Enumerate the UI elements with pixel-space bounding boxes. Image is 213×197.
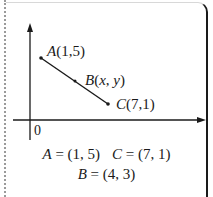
label-point-b: B(x, y) [85, 73, 125, 88]
y-axis-arrow-icon [27, 23, 33, 32]
point-c [106, 102, 110, 106]
label-a-var: A [47, 43, 56, 59]
label-b-y: y [113, 72, 120, 88]
eq-b-var: B [78, 166, 87, 182]
origin-label: 0 [34, 124, 41, 138]
diagram-frame: A(1,5) B(x, y) C(7,1) 0 A = (1, 5)C = (7… [0, 0, 213, 197]
label-c-var: C [116, 96, 126, 112]
eq-b-val: = (4, 3) [87, 166, 135, 182]
x-axis-arrow-icon [197, 117, 206, 123]
label-b-x: x [99, 72, 106, 88]
eq-c-var: C [112, 146, 122, 162]
label-c-coords: (7,1) [126, 96, 155, 112]
eq-a-var: A [42, 146, 51, 162]
equation-line-1: A = (1, 5)C = (7, 1) [0, 147, 213, 162]
point-b [74, 80, 77, 83]
label-b-close: ) [120, 72, 125, 88]
label-b-var: B [85, 72, 94, 88]
label-point-c: C(7,1) [116, 97, 155, 112]
label-point-a: A(1,5) [47, 44, 85, 59]
equation-line-2: B = (4, 3) [0, 167, 213, 182]
eq-a-val: = (1, 5) [52, 146, 100, 162]
eq-c-val: = (7, 1) [122, 146, 170, 162]
point-a [39, 56, 43, 60]
label-a-coords: (1,5) [56, 43, 85, 59]
